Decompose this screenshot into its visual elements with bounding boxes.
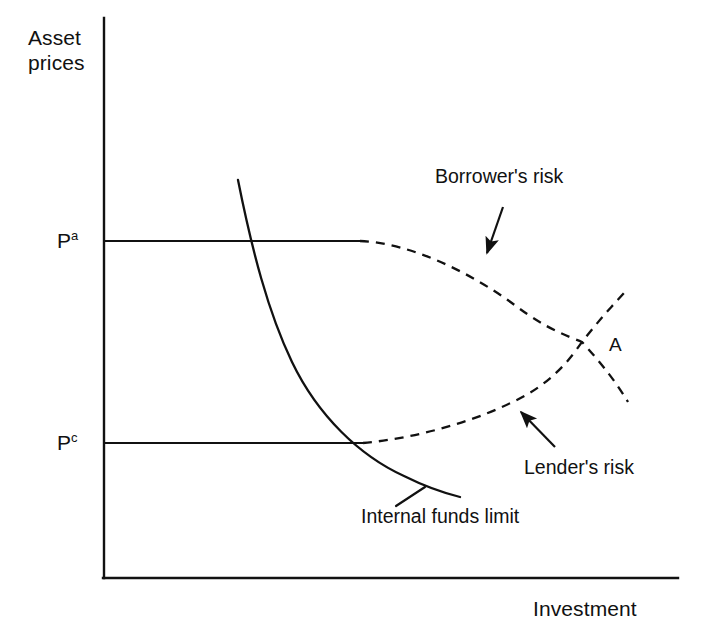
borrowers-risk-curve [360, 241, 628, 402]
equilibrium-point-label: A [609, 334, 622, 356]
internal-funds-limit-pointer [396, 487, 425, 506]
diagram-canvas [0, 0, 706, 638]
y-tick-label-pa: Pa [57, 229, 78, 254]
lenders-risk-label: Lender's risk [524, 456, 634, 479]
pa-base: P [57, 229, 71, 252]
borrowers-risk-arrow [487, 207, 503, 253]
pa-exponent: a [71, 228, 78, 243]
pc-exponent: c [71, 430, 78, 445]
lenders-risk-arrow [521, 412, 555, 447]
y-axis-title-line-2: prices [28, 51, 85, 76]
internal-funds-limit-curve [238, 180, 460, 497]
borrowers-risk-label: Borrower's risk [435, 165, 563, 188]
minsky-investment-diagram: Asset prices Investment Pa Pc Borrower's… [0, 0, 706, 638]
x-axis-title: Investment [533, 597, 637, 622]
pc-base: P [57, 431, 71, 454]
lenders-risk-curve [363, 292, 625, 443]
internal-funds-limit-label: Internal funds limit [361, 505, 519, 528]
y-axis-title: Asset prices [28, 26, 85, 76]
y-tick-label-pc: Pc [57, 431, 78, 456]
y-axis-title-line-1: Asset [28, 26, 85, 51]
